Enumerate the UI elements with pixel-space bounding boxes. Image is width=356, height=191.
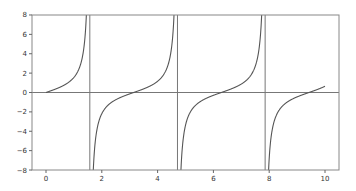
x-tick-label: 8	[267, 175, 271, 183]
x-tick-label: 2	[100, 175, 104, 183]
y-tick-label: 6	[23, 31, 28, 39]
y-tick-label: −2	[17, 108, 27, 116]
y-tick-label: 4	[23, 50, 28, 58]
tan-chart: 0246810 −8−6−4−202468	[0, 0, 356, 191]
x-tick-label: 6	[211, 175, 216, 183]
y-tick-label: −8	[17, 167, 27, 175]
y-tick-label: −6	[17, 147, 28, 155]
x-axis: 0246810	[44, 170, 330, 183]
x-tick-label: 4	[155, 175, 160, 183]
y-tick-label: 0	[23, 89, 27, 97]
tan-series-line	[46, 0, 325, 191]
x-tick-label: 0	[44, 175, 48, 183]
x-tick-label: 10	[321, 175, 330, 183]
reference-lines	[32, 15, 339, 170]
y-tick-label: −4	[17, 128, 28, 136]
y-tick-label: 8	[23, 11, 27, 19]
y-tick-label: 2	[23, 70, 27, 78]
tan-curve	[46, 0, 325, 191]
y-axis: −8−6−4−202468	[17, 11, 32, 174]
